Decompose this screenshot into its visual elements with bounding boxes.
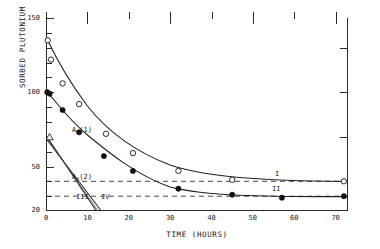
series-I-markers [45,38,347,184]
subscript-zero-1: 0 [76,129,79,135]
plot-area: 150 100 50 20 0 10 20 30 40 50 60 70 [46,18,348,211]
annotation-asymptote-1: A0(1) [72,126,92,135]
x-ticklabel-40: 40 [202,214,222,222]
figure-container: 150 100 50 20 0 10 20 30 40 50 60 70 [0,0,380,249]
curve-label-II: II [272,185,280,193]
datapoint-II [230,192,235,197]
datapoint-I [60,81,65,86]
datapoint-I [130,150,135,155]
datapoint-II [279,195,284,200]
x-ticklabel-70: 70 [326,214,346,222]
y-axis-title: SORBED PLUTONIUM (dpm/g x 10-3) [16,0,27,88]
curve-label-IV: IV [101,193,109,201]
datapoint-I [103,131,108,136]
x-ticklabel-10: 10 [77,214,97,222]
y-ticklabel-50: 50 [20,163,40,171]
curve-label-I: I [275,170,279,178]
marker-open-triangle-III [46,134,53,140]
datapoint-II [341,194,346,199]
y-ticklabel-100: 100 [20,88,40,96]
datapoint-II [101,154,106,159]
datapoint-I [176,168,181,173]
x-ticklabel-30: 30 [160,214,180,222]
datapoint-I [76,101,81,106]
curve-label-III: III [76,193,89,201]
subscript-zero-2: 0 [76,176,79,182]
datapoint-II [47,91,52,96]
series-II-markers [45,90,347,201]
datapoint-I [45,38,50,43]
curve-I [48,40,347,181]
datapoint-II [176,186,181,191]
x-ticklabel-0: 0 [36,214,56,222]
x-ticklabel-50: 50 [243,214,263,222]
datapoint-I [341,179,346,184]
y-axis-title-text: SORBED PLUTONIUM (dpm/g x 10 [18,0,27,88]
datapoint-II [60,107,65,112]
datapoint-II [130,168,135,173]
datapoint-I [230,177,235,182]
x-ticklabel-60: 60 [284,214,304,222]
y-ticklabel-20: 20 [20,206,40,214]
x-ticklabel-20: 20 [119,214,139,222]
annotation-asymptote-2: A0(2) [72,173,92,182]
datapoint-I [48,57,53,62]
x-axis-title: TIME (HOURS) [46,230,348,239]
